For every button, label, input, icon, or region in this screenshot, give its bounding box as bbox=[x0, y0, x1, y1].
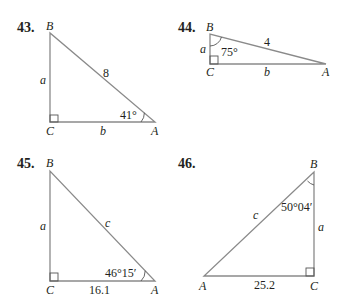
angle-label: 50°04′ bbox=[281, 200, 313, 214]
hypotenuse-label: c bbox=[105, 216, 111, 230]
vertex-label-b: B bbox=[46, 156, 54, 170]
triangle bbox=[204, 172, 314, 276]
vertex-label-b: B bbox=[46, 19, 54, 33]
angle-arc bbox=[210, 37, 222, 46]
vertex-label-c: C bbox=[206, 65, 215, 79]
angle-arc bbox=[308, 181, 315, 185]
side-label-b: b bbox=[264, 65, 270, 79]
triangle bbox=[50, 171, 155, 281]
angle-label: 75° bbox=[221, 45, 238, 59]
problem-number: 46. bbox=[178, 156, 196, 171]
problem-number: 43. bbox=[17, 20, 35, 35]
side-label-a: a bbox=[40, 219, 46, 233]
side-label-a: a bbox=[318, 220, 324, 234]
side-label-a: a bbox=[40, 73, 46, 87]
angle-label: 46°15′ bbox=[105, 266, 137, 280]
side-label-b: b bbox=[100, 124, 106, 138]
angle-label: 41° bbox=[120, 108, 137, 122]
problem-number: 44. bbox=[178, 20, 196, 35]
problem-44: 44. B C A a b 4 75° bbox=[178, 20, 330, 79]
triangle-exercises-figure: 43. B C A a b 8 41° 44. B C A a b 4 75° … bbox=[0, 0, 349, 305]
vertex-label-c: C bbox=[46, 124, 55, 138]
vertex-label-a: A bbox=[150, 283, 159, 297]
side-label-b: 25.2 bbox=[254, 278, 275, 292]
right-angle-marker bbox=[210, 56, 218, 64]
problem-45: 45. B C A a 16.1 c 46°15′ bbox=[17, 156, 159, 297]
hypotenuse-label: c bbox=[253, 208, 259, 222]
vertex-label-a: A bbox=[150, 124, 159, 138]
problem-46: 46. B C A a 25.2 c 50°04′ bbox=[178, 156, 324, 293]
right-angle-marker bbox=[50, 273, 58, 281]
right-angle-marker bbox=[50, 115, 58, 122]
problem-43: 43. B C A a b 8 41° bbox=[17, 19, 159, 138]
vertex-label-b: B bbox=[206, 20, 214, 34]
vertex-label-a: A bbox=[321, 65, 330, 79]
angle-arc bbox=[141, 113, 144, 122]
side-label-a: a bbox=[200, 42, 206, 56]
vertex-label-c: C bbox=[46, 283, 55, 297]
hypotenuse-label: 4 bbox=[264, 35, 270, 49]
hypotenuse-label: 8 bbox=[103, 66, 109, 80]
side-label-b: 16.1 bbox=[89, 283, 110, 297]
vertex-label-a: A bbox=[198, 279, 207, 293]
problem-number: 45. bbox=[17, 156, 35, 171]
vertex-label-c: C bbox=[310, 279, 319, 293]
vertex-label-b: B bbox=[310, 157, 318, 171]
angle-arc bbox=[141, 271, 145, 281]
right-angle-marker bbox=[306, 268, 314, 276]
